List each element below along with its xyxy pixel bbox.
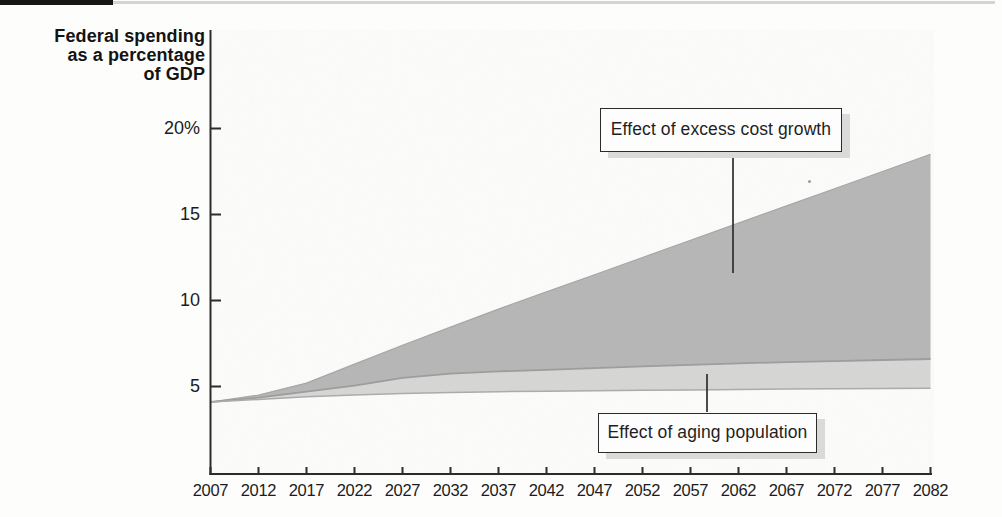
x-axis-tick-label: 2047 (577, 481, 613, 500)
x-axis-tick-label: 2017 (289, 481, 325, 500)
excess-cost-growth-callout-label: Effect of excess cost growth (611, 119, 831, 139)
x-axis-tick-label: 2052 (625, 481, 661, 500)
x-axis-tick-label: 2037 (481, 481, 517, 500)
x-axis-tick-label: 2042 (529, 481, 565, 500)
x-axis-tick-label: 2032 (433, 481, 469, 500)
x-axis-tick-label: 2022 (337, 481, 373, 500)
y-axis-tick-label: 20% (130, 118, 200, 139)
x-axis-tick-label: 2012 (241, 481, 277, 500)
aging-population-callout-label: Effect of aging population (608, 422, 808, 442)
y-axis-tick-label: 15 (130, 204, 200, 225)
scan-noise-texture (210, 30, 934, 476)
x-axis-tick-label: 2007 (193, 481, 229, 500)
y-axis-tick-label: 5 (130, 376, 200, 397)
aging-population-callout-box: Effect of aging population (598, 413, 817, 453)
x-axis-tick-label: 2077 (865, 481, 901, 500)
x-axis-tick-label: 2082 (913, 481, 949, 500)
x-axis-tick-label: 2067 (769, 481, 805, 500)
x-axis-tick-label: 2027 (385, 481, 421, 500)
x-axis-tick-label: 2057 (673, 481, 709, 500)
x-axis-tick-label: 2062 (721, 481, 757, 500)
y-axis-tick-label: 10 (130, 290, 200, 311)
figure-canvas: Federal spending as a percentage of GDP (0, 0, 1002, 517)
chart-plot-area (0, 0, 1002, 517)
x-axis-tick-label: 2072 (817, 481, 853, 500)
excess-cost-growth-callout-box: Effect of excess cost growth (600, 108, 842, 152)
